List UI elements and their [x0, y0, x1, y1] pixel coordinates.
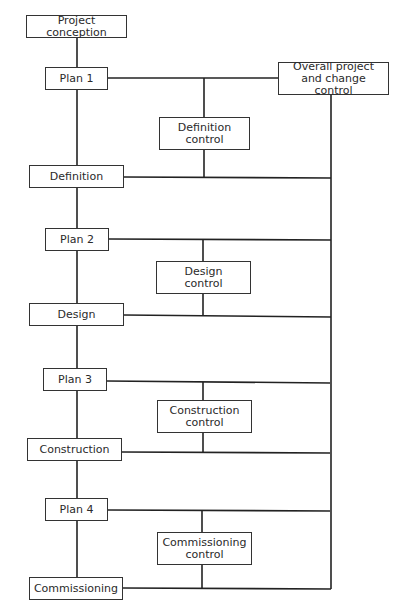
node-label: Design control — [179, 266, 228, 290]
node-construction: Construction — [27, 438, 122, 461]
node-label: Commissioning — [34, 583, 118, 595]
node-plan-1: Plan 1 — [45, 67, 108, 90]
node-label: Overall project and change control — [283, 61, 384, 97]
node-overall-control: Overall project and change control — [278, 62, 389, 95]
node-definition: Definition — [29, 165, 124, 188]
node-label: Plan 3 — [58, 374, 92, 386]
node-design-control: Design control — [156, 261, 251, 294]
node-design: Design — [29, 303, 124, 326]
node-label: Plan 4 — [60, 504, 94, 516]
node-plan-2: Plan 2 — [45, 228, 109, 251]
node-project-conception: Project conception — [26, 15, 127, 38]
node-definition-control: Definition control — [159, 117, 250, 150]
node-label: Definition — [50, 171, 103, 183]
node-label: Project conception — [27, 15, 126, 39]
node-label: Plan 1 — [60, 73, 94, 85]
node-plan-4: Plan 4 — [45, 498, 108, 521]
node-construction-control: Construction control — [157, 400, 252, 433]
node-label: Definition control — [174, 122, 235, 146]
node-label: Design — [58, 309, 96, 321]
node-plan-3: Plan 3 — [43, 368, 107, 391]
node-label: Plan 2 — [60, 234, 94, 246]
node-commissioning: Commissioning — [29, 577, 123, 600]
node-label: Construction control — [164, 405, 245, 429]
node-commissioning-control: Commissioning control — [157, 532, 252, 565]
node-label: Construction — [39, 444, 109, 456]
node-label: Commissioning control — [162, 537, 247, 561]
